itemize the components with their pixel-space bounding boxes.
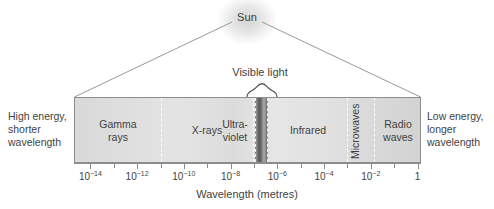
axis-tick-label: 10−4 (314, 171, 333, 182)
spectrum-bar: Gamma rays X-rays Ultra- violet Infrared… (74, 97, 421, 163)
electromagnetic-spectrum-figure: Sun Visible light Gamma rays X-rays Ultr… (0, 0, 494, 209)
axis-minor-tick (254, 163, 255, 168)
band-label-microwaves: Microwaves (349, 102, 373, 160)
axis-title: Wavelength (metres) (0, 188, 494, 200)
axis-tick-label: 10−8 (221, 171, 240, 182)
axis-tick (324, 163, 325, 169)
axis-tick (137, 163, 138, 169)
axis-minor-tick (394, 163, 395, 168)
axis-tick-label: 1 (415, 171, 421, 182)
axis-tick (184, 163, 185, 169)
axis-tick (277, 163, 278, 169)
axis-tick-label: 10−2 (361, 171, 380, 182)
axis-tick-label: 10−10 (172, 171, 195, 182)
axis-tick-label: 10−6 (268, 171, 287, 182)
axis-line (74, 163, 421, 164)
band-label-infrared: Infrared (271, 124, 345, 137)
axis-tick (90, 163, 91, 169)
sun-label: Sun (218, 11, 276, 23)
axis-tick (371, 163, 372, 169)
band-label-gamma-rays: Gamma rays (81, 118, 155, 143)
axis-minor-tick (207, 163, 208, 168)
visible-light-band (255, 98, 268, 162)
axis-minor-tick (301, 163, 302, 168)
band-divider-gamma-xray (161, 98, 162, 162)
band-label-ultraviolet: Ultra- violet (215, 118, 255, 143)
band-divider-infrared-microwave (347, 98, 348, 162)
axis-minor-tick (347, 163, 348, 168)
axis-tick (231, 163, 232, 169)
band-label-radio-waves: Radio waves (376, 118, 420, 143)
band-divider-microwave-radio (374, 98, 375, 162)
visible-light-brace-icon (246, 82, 278, 98)
left-energy-note: High energy, shorter wavelength (8, 110, 74, 149)
right-energy-note: Low energy, longer wavelength (427, 110, 493, 149)
axis-tick-label: 10−14 (79, 171, 102, 182)
visible-light-label: Visible light (198, 66, 322, 78)
axis-tick (418, 163, 419, 169)
axis-minor-tick (161, 163, 162, 168)
axis-minor-tick (114, 163, 115, 168)
axis-tick-label: 10−12 (126, 171, 149, 182)
